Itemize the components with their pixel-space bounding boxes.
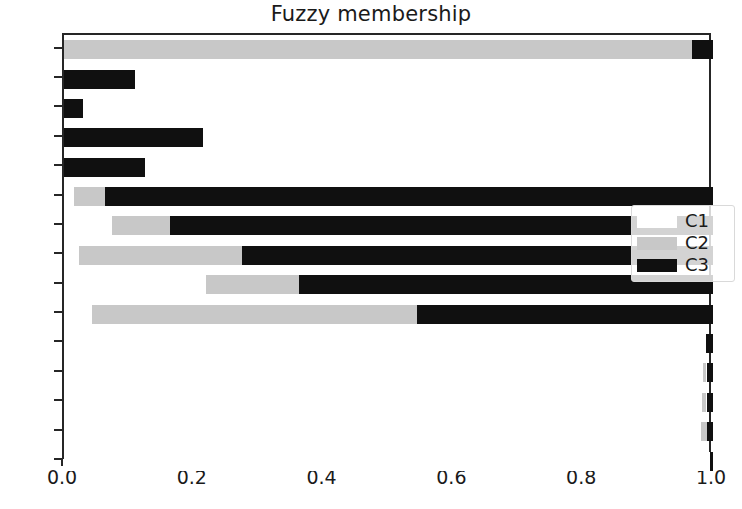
chart-legend: C1C2C3: [631, 205, 735, 282]
bar-segment: [64, 128, 203, 147]
bar-segment: [64, 422, 701, 441]
bar-segment: [64, 275, 206, 294]
bar-segment: [64, 187, 74, 206]
y-tick-mark: [54, 429, 62, 431]
y-tick-mark: [54, 399, 62, 401]
y-tick-mark: [54, 340, 62, 342]
bar-segment: [706, 334, 713, 353]
bar-segment: [64, 393, 702, 412]
bar-segment: [417, 305, 713, 324]
bar-segment: [112, 216, 170, 235]
y-tick-mark: [54, 311, 62, 313]
legend-swatch-c3: [637, 259, 677, 272]
chart-figure: Fuzzy membership 01020304050607080901001…: [0, 0, 742, 509]
bar-segment: [710, 452, 713, 471]
bar-segment: [206, 275, 299, 294]
bar-segment: [692, 40, 713, 59]
bar-segment: [79, 246, 242, 265]
y-tick-mark: [54, 164, 62, 166]
legend-label: C3: [685, 256, 709, 274]
bars-layer: [64, 35, 709, 457]
bar-segment: [64, 334, 706, 353]
y-tick-mark: [54, 135, 62, 137]
legend-item: C3: [637, 254, 729, 276]
chart-title: Fuzzy membership: [0, 2, 742, 26]
bar-segment: [64, 452, 710, 471]
x-tick-mark: [61, 459, 63, 466]
y-tick-mark: [54, 194, 62, 196]
legend-label: C1: [685, 212, 709, 230]
legend-label: C2: [685, 234, 709, 252]
bar-segment: [707, 393, 713, 412]
legend-item: C1: [637, 210, 729, 232]
bar-segment: [64, 363, 703, 382]
bar-segment: [707, 363, 713, 382]
bar-segment: [64, 216, 112, 235]
legend-item: C2: [637, 232, 729, 254]
legend-swatch-c1: [637, 215, 677, 228]
y-tick-mark: [54, 223, 62, 225]
bar-segment: [64, 40, 692, 59]
plot-area: [62, 33, 711, 459]
y-tick-mark: [54, 370, 62, 372]
legend-swatch-c2: [637, 237, 677, 250]
bar-segment: [74, 187, 105, 206]
bar-segment: [92, 305, 417, 324]
y-tick-mark: [54, 105, 62, 107]
bar-segment: [64, 246, 79, 265]
y-tick-mark: [54, 282, 62, 284]
bar-segment: [707, 422, 713, 441]
bar-segment: [64, 70, 135, 89]
y-tick-mark: [54, 76, 62, 78]
bar-segment: [64, 158, 145, 177]
bar-segment: [64, 99, 83, 118]
bar-segment: [105, 187, 713, 206]
y-tick-mark: [54, 47, 62, 49]
y-tick-mark: [54, 252, 62, 254]
bar-segment: [64, 305, 92, 324]
